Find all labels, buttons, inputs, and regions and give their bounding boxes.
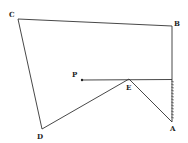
- geometry-diagram: C B P E D A: [0, 0, 188, 143]
- label-c: C: [9, 10, 15, 19]
- ray-p-to-wall: [82, 80, 172, 81]
- edge-de: [42, 79, 129, 129]
- label-a: A: [169, 124, 176, 133]
- point-p-dot: [81, 79, 83, 81]
- label-d: D: [37, 132, 43, 141]
- label-e: E: [126, 83, 131, 92]
- edge-cd: [18, 19, 42, 129]
- label-p: P: [72, 70, 78, 79]
- hatched-wall: [171, 81, 174, 118]
- label-b: B: [174, 19, 180, 28]
- edge-cb: [18, 19, 172, 26]
- edge-ea: [129, 79, 172, 122]
